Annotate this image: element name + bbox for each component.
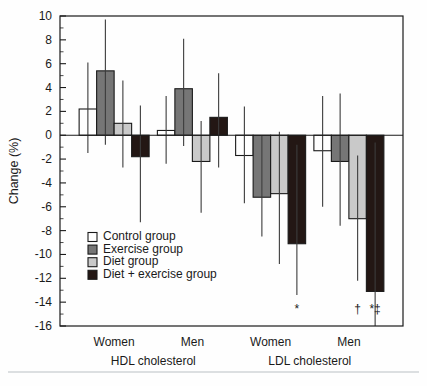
y-tick-label: -4 [41,176,52,190]
y-tick-label: 4 [45,81,52,95]
legend-swatch-0 [88,233,97,242]
significance-marker-1: † [354,302,361,316]
x-supercategory-label-0: HDL cholesterol [111,354,196,368]
figure-panel: 1086420-2-4-6-8-10-12-14-16WomenMenWomen… [0,0,427,386]
y-tick-label: -14 [35,295,53,309]
y-tick-label: -6 [41,200,52,214]
x-category-label-0: Women [94,335,135,349]
y-tick-label: 8 [45,33,52,47]
y-tick-label: -2 [41,152,52,166]
y-tick-label: 0 [45,128,52,142]
legend-swatch-3 [88,270,97,279]
y-axis-title: Change (%) [7,138,21,205]
legend-swatch-1 [88,245,97,254]
y-tick-label: -8 [41,224,52,238]
legend-label-3: Diet + exercise group [103,267,217,281]
bar-chart-svg: 1086420-2-4-6-8-10-12-14-16WomenMenWomen… [0,0,427,386]
x-supercategory-label-1: LDL cholesterol [268,354,351,368]
x-category-label-3: Men [337,335,360,349]
y-tick-label: -16 [35,319,53,333]
y-tick-label: -10 [35,247,53,261]
x-category-label-2: Women [250,335,291,349]
legend-swatch-2 [88,258,97,267]
significance-marker-2: *‡ [369,302,380,316]
y-tick-label: 10 [39,9,53,23]
significance-marker-0: * [295,302,300,316]
y-tick-label: -12 [35,271,53,285]
y-tick-label: 6 [45,57,52,71]
x-category-label-1: Men [181,335,204,349]
y-tick-label: 2 [45,104,52,118]
